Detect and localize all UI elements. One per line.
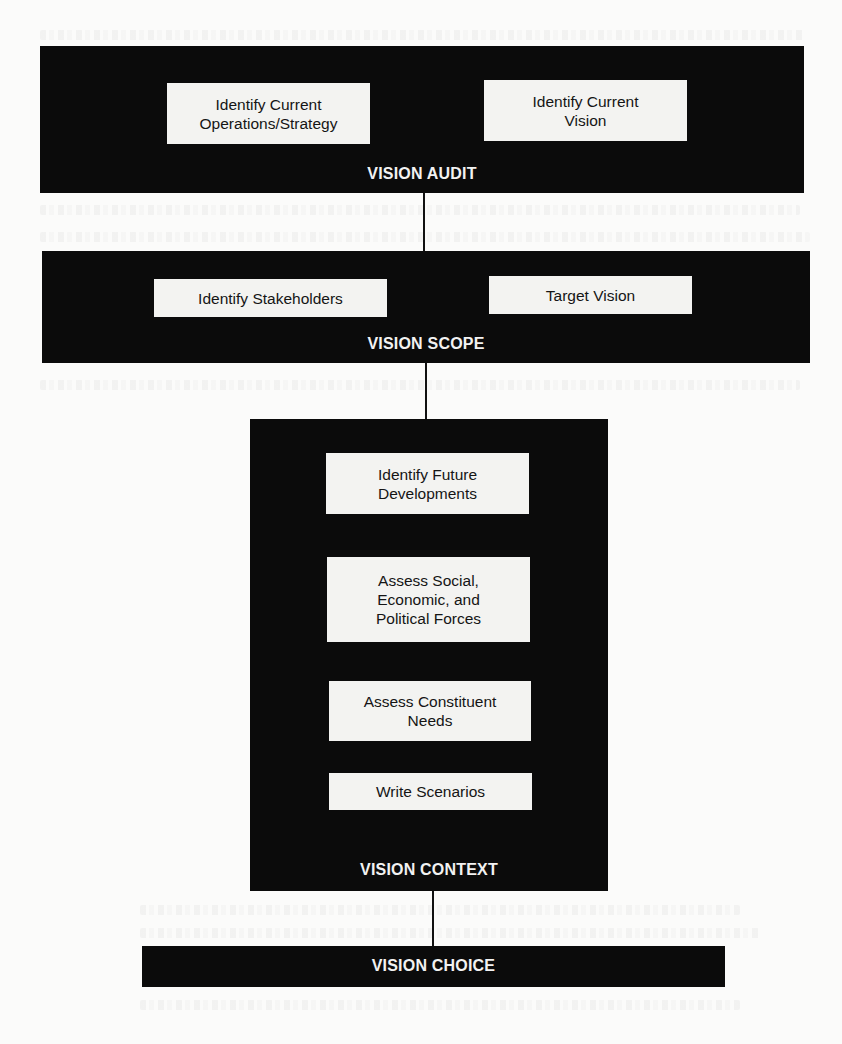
- scan-bleed-through: [40, 232, 810, 242]
- stage-label-vision-context: VISION CONTEXT: [250, 861, 608, 879]
- step-write-scenarios: Write Scenarios: [329, 773, 532, 810]
- connector-audit-to-scope: [423, 193, 425, 252]
- step-label: Assess Constituent Needs: [364, 692, 497, 730]
- step-assess-constituent-needs: Assess Constituent Needs: [329, 681, 531, 741]
- step-identify-future-developments: Identify Future Developments: [326, 453, 529, 514]
- connector-scope-to-context: [425, 362, 427, 420]
- stage-vision-context: Identify Future Developments Assess Soci…: [250, 419, 608, 891]
- stage-label-vision-audit: VISION AUDIT: [40, 165, 804, 183]
- scan-bleed-through: [40, 205, 800, 215]
- scan-bleed-through: [140, 928, 760, 938]
- scan-bleed-through: [40, 380, 800, 390]
- step-label: Identify Stakeholders: [198, 289, 343, 308]
- step-identify-current-vision: Identify Current Vision: [484, 80, 687, 141]
- stage-label-vision-scope: VISION SCOPE: [42, 335, 810, 353]
- scan-bleed-through: [40, 30, 805, 40]
- scan-bleed-through: [140, 905, 740, 915]
- step-identify-current-operations-strategy: Identify Current Operations/Strategy: [167, 83, 370, 144]
- step-identify-stakeholders: Identify Stakeholders: [154, 279, 387, 317]
- stage-label-vision-choice: VISION CHOICE: [142, 957, 725, 975]
- connector-context-to-choice: [432, 890, 434, 947]
- step-label: Identify Current Vision: [533, 92, 639, 130]
- stage-vision-audit: Identify Current Operations/Strategy Ide…: [40, 46, 804, 193]
- step-label: Write Scenarios: [376, 782, 485, 801]
- step-label: Identify Future Developments: [378, 465, 477, 503]
- step-label: Identify Current Operations/Strategy: [200, 95, 338, 133]
- step-assess-social-economic-political-forces: Assess Social, Economic, and Political F…: [327, 557, 530, 642]
- step-label: Assess Social, Economic, and Political F…: [376, 571, 481, 628]
- scan-bleed-through: [140, 1000, 740, 1010]
- stage-vision-choice: VISION CHOICE: [142, 946, 725, 987]
- step-target-vision: Target Vision: [489, 276, 692, 314]
- step-label: Target Vision: [546, 286, 635, 305]
- stage-vision-scope: Identify Stakeholders Target Vision VISI…: [42, 251, 810, 363]
